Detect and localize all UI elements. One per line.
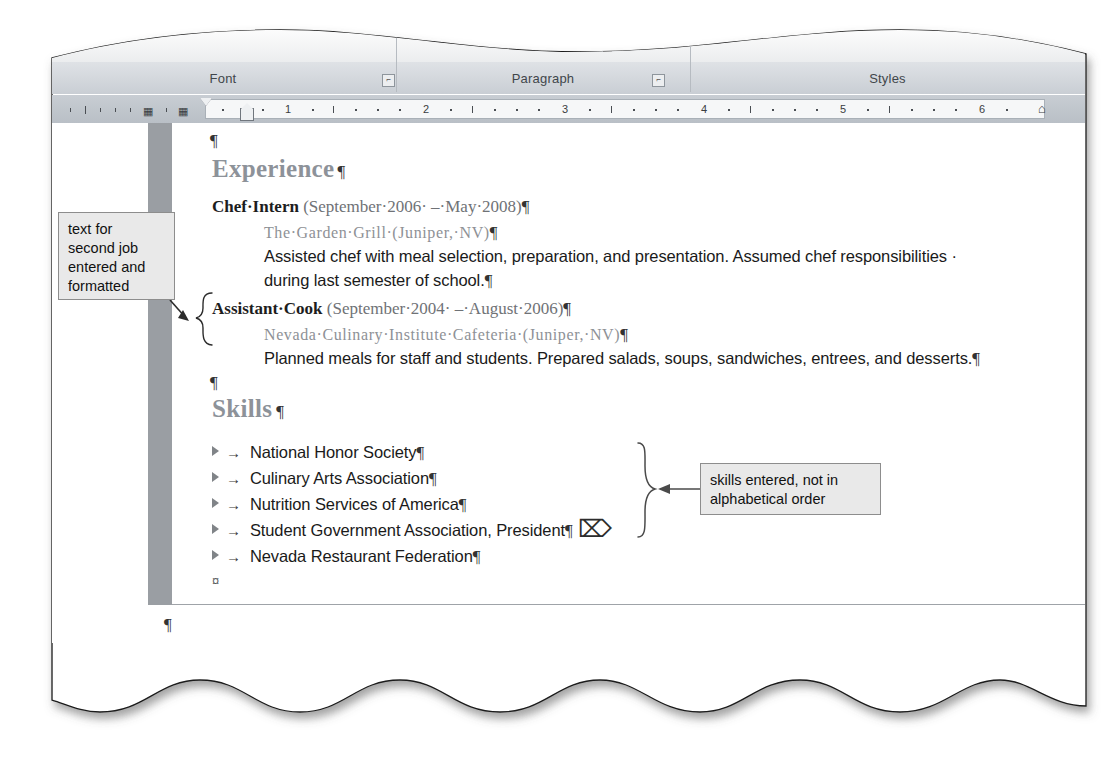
screenshot-stage: A Aa al ... ¶ Recip Font ⌐ Paragraph ⌐ S… [0,0,1107,767]
company-garden-grill[interactable]: The·Garden·Grill·(Juniper,·NV)¶ [264,223,498,243]
ruler-tick [911,109,913,111]
chef-intern-description-line2[interactable]: during last semester of school.¶ [264,271,492,291]
ruler-number: 5 [840,103,846,115]
tab-stop-icon[interactable]: ▦ [178,106,188,116]
first-line-indent-marker[interactable] [200,98,212,106]
ruler-tick [589,109,591,111]
paragraph-mark: ¶ [565,521,573,540]
paragraph-mark: ¶ [276,402,284,421]
ruler-text-area[interactable] [205,99,1045,119]
tab-stop-icon[interactable]: ▦ [143,106,153,116]
collapse-triangle-icon[interactable] [212,550,219,560]
callout-right-line-1: skills entered, not in [710,471,871,490]
ruler-tick [867,109,869,111]
paragraph-mark: ¶ [429,469,437,488]
ribbon-group-font[interactable]: Font [50,62,396,94]
company-nevada-culinary[interactable]: Nevada·Culinary·Institute·Cafeteria·(Jun… [264,325,629,345]
ribbon-group-paragraph-label: Paragraph [512,71,575,86]
collapse-triangle-icon[interactable] [212,498,219,508]
ruler-tick [472,106,473,113]
job-title-assistant-cook-dates: (September·2004· –·August·2006) [323,299,564,318]
job-title-chef-intern-dates: (September·2006· –·May·2008) [299,197,522,216]
end-of-content-mark: ¤ [212,573,219,588]
document-page[interactable] [50,123,1085,643]
ruler-tick [333,106,334,113]
list-item[interactable]: →Culinary Arts Association¶ [212,469,437,489]
ruler-tick [516,109,518,111]
tab-mark-icon: → [226,470,241,487]
paragraph-mark: ¶ [563,299,571,318]
company-garden-grill-text: The·Garden·Grill·(Juniper,·NV) [264,224,490,241]
heading-skills[interactable]: Skills¶ [212,395,284,423]
callout-right-line-2: alphabetical order [710,490,871,509]
paragraph-mark: ¶ [620,325,628,344]
ruler-tick [1006,109,1008,111]
ruler-tick [538,109,540,111]
ruler-number: 2 [423,103,429,115]
ribbon-group-font-label: Font [210,71,237,86]
collapse-triangle-icon[interactable] [212,472,219,482]
collapse-triangle-icon[interactable] [212,524,219,534]
ruler-tick [312,109,314,111]
empty-paragraph-mark: ¶ [210,131,218,151]
list-item[interactable]: →National Honor Society¶ [212,443,424,463]
list-item-label: Student Government Association, Presiden… [250,521,565,539]
callout-right: skills entered, not in alphabetical orde… [700,463,881,515]
paragraph-mark: ¶ [459,495,467,514]
list-item-label: National Honor Society [250,443,417,461]
list-item[interactable]: →Nutrition Services of America¶ [212,495,466,515]
paragraph-mark: ¶ [490,223,498,242]
paragraph-dialog-launcher[interactable]: ⌐ [652,74,665,87]
heading-skills-text: Skills [212,395,272,422]
page-bottom-boundary [172,604,1085,605]
tab-mark-icon: → [226,444,241,461]
left-indent-marker[interactable] [240,108,254,121]
tab-mark-icon: → [226,496,241,513]
chef-intern-description-line2-text: during last semester of school. [264,271,485,289]
ruler-tick [115,108,116,112]
paragraph-mark: ¶ [337,162,345,181]
list-item[interactable]: →Student Government Association, Preside… [212,521,573,541]
ruler-tick [816,109,818,111]
company-nevada-culinary-text: Nevada·Culinary·Institute·Cafeteria·(Jun… [264,326,620,343]
ruler-tick [611,106,612,113]
ruler-tick [450,109,452,111]
callout-left-line-2: second job [68,239,165,258]
paragraph-mark: ¶ [485,271,493,290]
heading-experience[interactable]: Experience¶ [212,155,345,183]
paragraph-mark: ¶ [972,349,980,368]
assistant-cook-description[interactable]: Planned meals for staff and students. Pr… [264,349,980,369]
ruler-tick [750,106,751,113]
chef-intern-description-line1-text: Assisted chef with meal selection, prepa… [264,247,957,265]
ruler-tick [728,109,730,111]
collapse-triangle-icon[interactable] [212,446,219,456]
ruler-number: 4 [701,103,707,115]
ruler-tick [130,108,131,112]
ribbon-group-paragraph[interactable]: Paragraph [396,62,690,94]
tab-mark-icon: → [226,548,241,565]
ribbon-group-styles-label: Styles [869,71,906,86]
heading-experience-text: Experience [212,155,334,182]
ruler-tick [955,109,957,111]
job-title-assistant-cook[interactable]: Assistant·Cook (September·2004· –·August… [212,299,571,319]
ruler-tick [655,109,657,111]
job-title-chef-intern[interactable]: Chef·Intern (September·2006· –·May·2008)… [212,197,529,217]
ruler-tick [70,108,71,112]
paragraph-mark: ¶ [416,443,424,462]
empty-paragraph-mark-2: ¶ [210,373,218,393]
right-indent-marker[interactable]: ⌂ [1038,104,1048,114]
ruler-tick [772,109,774,111]
job-title-chef-intern-bold: Chef·Intern [212,197,299,216]
font-dialog-launcher[interactable]: ⌐ [382,74,395,87]
ruler-tick [794,109,796,111]
callout-left-line-3: entered and [68,258,165,277]
ruler-number: 3 [562,103,568,115]
ruler-tick [355,109,357,111]
ribbon-group-styles[interactable]: Styles [690,62,1085,94]
chef-intern-description-line1[interactable]: Assisted chef with meal selection, prepa… [264,247,957,266]
ruler-tick [494,109,496,111]
text-cursor-ibeam: ⌦ [578,515,612,543]
paragraph-mark: ¶ [522,197,530,216]
list-item[interactable]: →Nevada Restaurant Federation¶ [212,547,480,567]
list-item-label: Nutrition Services of America [250,495,459,513]
